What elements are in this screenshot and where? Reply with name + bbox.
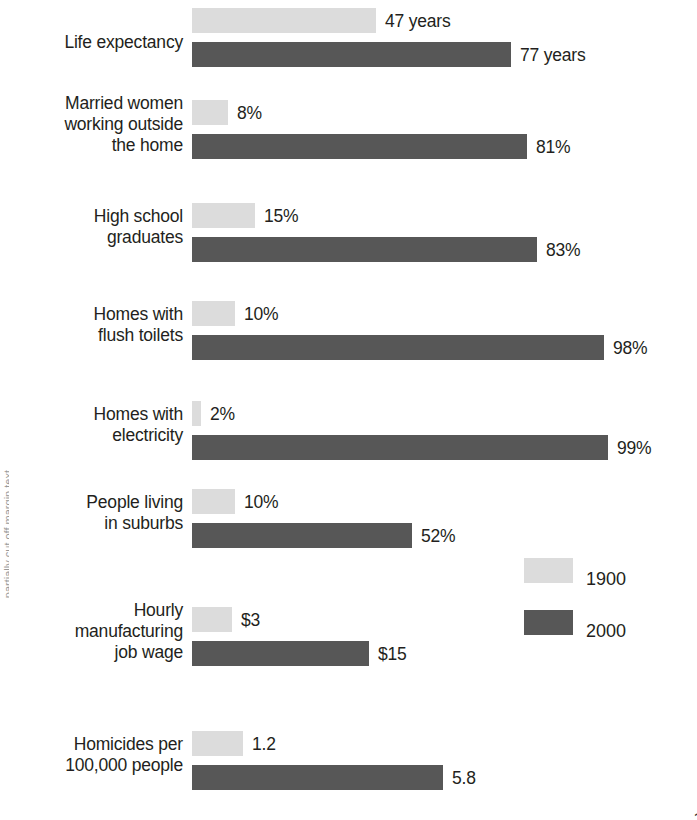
bar-value-label: 15% xyxy=(264,205,298,226)
row-label-line: People living xyxy=(10,492,183,513)
row-label-line: in suburbs xyxy=(10,513,183,534)
row-label: Homes withflush toilets xyxy=(10,304,183,346)
left-margin-credit-text: partially cut off margin text xyxy=(2,470,9,598)
bar-line: 47 years xyxy=(192,8,662,33)
row-label: Homicides per100,000 people xyxy=(10,734,183,776)
bar-2000 xyxy=(192,641,369,666)
bar-line: 5.8 xyxy=(192,765,662,790)
bar-line: 99% xyxy=(192,435,662,460)
legend-label: 1900 xyxy=(586,569,626,590)
bar-1900 xyxy=(192,8,376,33)
bar-value-label: 47 years xyxy=(385,10,451,31)
bar-line: 15% xyxy=(192,203,662,228)
bar-2000 xyxy=(192,435,608,460)
bar-1900 xyxy=(192,301,235,326)
bar-2000 xyxy=(192,335,604,360)
bar-line: 10% xyxy=(192,301,662,326)
row-label-line: job wage xyxy=(10,642,183,663)
bar-value-label: 99% xyxy=(617,437,651,458)
bar-line: 1.2 xyxy=(192,731,662,756)
row-label-line: Homicides per xyxy=(10,734,183,755)
row-label: People livingin suburbs xyxy=(10,492,183,534)
bar-value-label: $15 xyxy=(378,643,407,664)
bar-value-label: 77 years xyxy=(520,44,586,65)
bar-line: 77 years xyxy=(192,42,662,67)
bar-1900 xyxy=(192,100,228,125)
row-label-line: High school xyxy=(10,206,183,227)
bar-value-label: $3 xyxy=(241,609,260,630)
row-label: Homes withelectricity xyxy=(10,404,183,446)
bar-line: 81% xyxy=(192,134,662,159)
bar-value-label: 98% xyxy=(613,337,647,358)
row-label-line: Hourly xyxy=(10,600,183,621)
bar-2000 xyxy=(192,134,527,159)
bar-value-label: 52% xyxy=(421,525,455,546)
bar-value-label: 81% xyxy=(536,136,570,157)
bar-1900 xyxy=(192,489,235,514)
source-credit: (Compiled by the authors using data from… xyxy=(676,0,697,820)
row-label-line: Life expectancy xyxy=(10,32,183,53)
bar-line: 98% xyxy=(192,335,662,360)
legend-swatch-1900 xyxy=(524,558,573,583)
bar-1900 xyxy=(192,401,201,426)
bar-2000 xyxy=(192,42,511,67)
bar-line: $15 xyxy=(192,641,662,666)
bar-value-label: 83% xyxy=(546,239,580,260)
row-label-line: manufacturing xyxy=(10,621,183,642)
source-credit-text: (Compiled by the authors using data from… xyxy=(693,812,697,820)
bar-2000 xyxy=(192,523,412,548)
legend-label: 2000 xyxy=(586,621,626,642)
bar-value-label: 8% xyxy=(237,102,262,123)
row-label: Hourlymanufacturingjob wage xyxy=(10,600,183,663)
row-label: Married womenworking outsidethe home xyxy=(10,93,183,156)
bar-value-label: 5.8 xyxy=(452,767,476,788)
bar-line: 8% xyxy=(192,100,662,125)
bar-chart: partially cut off margin text Life expec… xyxy=(0,0,697,820)
bar-2000 xyxy=(192,237,537,262)
bar-line: 2% xyxy=(192,401,662,426)
bar-value-label: 2% xyxy=(210,403,235,424)
row-label-line: Homes with xyxy=(10,304,183,325)
row-label: High schoolgraduates xyxy=(10,206,183,248)
left-margin-credit: partially cut off margin text xyxy=(0,0,9,820)
row-label-line: 100,000 people xyxy=(10,755,183,776)
bar-line: 83% xyxy=(192,237,662,262)
bar-value-label: 1.2 xyxy=(252,733,276,754)
bar-1900 xyxy=(192,203,255,228)
row-label-line: the home xyxy=(10,135,183,156)
row-label-line: electricity xyxy=(10,425,183,446)
row-label-line: working outside xyxy=(10,114,183,135)
row-label: Life expectancy xyxy=(10,32,183,53)
bar-1900 xyxy=(192,731,243,756)
bar-line: 52% xyxy=(192,523,662,548)
row-label-line: Married women xyxy=(10,93,183,114)
row-label-line: Homes with xyxy=(10,404,183,425)
legend-swatch-2000 xyxy=(524,610,573,635)
bar-value-label: 10% xyxy=(244,303,278,324)
row-label-line: flush toilets xyxy=(10,325,183,346)
bar-2000 xyxy=(192,765,443,790)
bar-1900 xyxy=(192,607,232,632)
bar-value-label: 10% xyxy=(244,491,278,512)
row-label-line: graduates xyxy=(10,227,183,248)
bar-line: 10% xyxy=(192,489,662,514)
